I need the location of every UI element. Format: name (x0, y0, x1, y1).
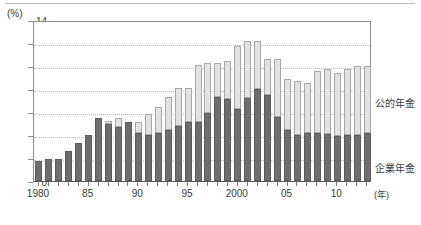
bar-segment-public-pension (314, 71, 321, 133)
bar-segment-corporate-pension (284, 130, 291, 181)
bar-segment-corporate-pension (35, 161, 42, 181)
bar-segment-corporate-pension (244, 98, 251, 181)
x-axis-tick-label: 90 (132, 188, 143, 199)
x-axis-tick-mark (108, 182, 109, 186)
bar-segment-public-pension (264, 59, 271, 95)
bar-column (214, 20, 221, 181)
bar-segment-public-pension (204, 63, 211, 114)
x-axis-tick-mark (326, 182, 327, 186)
x-axis-tick-mark (157, 182, 158, 186)
bar-column (334, 20, 341, 181)
plot-area (33, 21, 371, 182)
bar-segment-corporate-pension (55, 159, 62, 181)
x-axis-tick-mark (257, 182, 258, 186)
bar-column (204, 20, 211, 181)
bar-segment-corporate-pension (155, 133, 162, 181)
bar-group (34, 22, 370, 181)
bar-segment-public-pension (165, 97, 172, 130)
x-axis-tick-mark (366, 182, 367, 186)
bar-segment-corporate-pension (364, 133, 371, 181)
x-axis-tick-mark (118, 182, 119, 186)
x-axis-tick-mark (207, 182, 208, 186)
bar-column (65, 20, 72, 181)
x-axis-tick-mark (247, 182, 248, 186)
bar-segment-corporate-pension (85, 135, 92, 181)
bar-segment-public-pension (364, 66, 371, 133)
x-axis-tick-mark (306, 182, 307, 186)
x-axis-tick-label: 05 (281, 188, 292, 199)
bar-column (145, 20, 152, 181)
x-axis-tick-mark (48, 182, 49, 186)
bar-column (324, 20, 331, 181)
bar-segment-public-pension (155, 107, 162, 132)
x-axis-tick-mark (197, 182, 198, 186)
bar-column (304, 20, 311, 181)
bar-column (85, 20, 92, 181)
bar-column (364, 20, 371, 181)
bar-segment-public-pension (224, 61, 231, 99)
bar-segment-public-pension (145, 114, 152, 135)
x-axis-tick-mark (267, 182, 268, 186)
pension-stacked-bar-chart: (%) 02468101214 198085909520000510(年) 公的… (0, 0, 421, 225)
bar-column (274, 20, 281, 181)
bar-segment-corporate-pension (135, 133, 142, 181)
bar-segment-public-pension (344, 69, 351, 135)
x-axis-tick-mark (227, 182, 228, 186)
bar-segment-corporate-pension (264, 95, 271, 181)
x-axis-tick-mark (98, 182, 99, 186)
x-axis-tick-mark (137, 182, 138, 186)
bar-segment-corporate-pension (115, 127, 122, 181)
bar-segment-public-pension (175, 88, 182, 126)
bar-column (55, 20, 62, 181)
bar-column (35, 20, 42, 181)
bar-column (115, 20, 122, 181)
bar-segment-public-pension (284, 79, 291, 131)
bar-segment-public-pension (214, 63, 221, 98)
bar-segment-corporate-pension (324, 134, 331, 181)
bar-segment-public-pension (115, 118, 122, 127)
x-axis-tick-mark (88, 182, 89, 186)
x-axis-tick-label: 10 (331, 188, 342, 199)
bar-segment-public-pension (274, 59, 281, 117)
x-axis-tick-mark (78, 182, 79, 186)
bar-segment-public-pension (354, 66, 361, 135)
bar-segment-corporate-pension (65, 151, 72, 181)
x-axis-tick-label: 95 (182, 188, 193, 199)
bar-column (175, 20, 182, 181)
series-label-corporate-pension: 企業年金 (375, 160, 415, 175)
bar-segment-public-pension (324, 69, 331, 133)
bar-column (244, 20, 251, 181)
y-axis-tick-mark (28, 182, 33, 183)
x-axis-tick-mark (147, 182, 148, 186)
bar-segment-public-pension (304, 83, 311, 132)
bar-column (254, 20, 261, 181)
x-axis-tick-mark (316, 182, 317, 186)
bar-segment-corporate-pension (185, 122, 192, 181)
bar-column (264, 20, 271, 181)
bar-column (195, 20, 202, 181)
x-axis-tick-mark (177, 182, 178, 186)
bar-column (45, 20, 52, 181)
bar-segment-corporate-pension (274, 117, 281, 181)
bar-segment-corporate-pension (354, 135, 361, 181)
bar-segment-corporate-pension (224, 99, 231, 181)
x-axis-tick-mark (127, 182, 128, 186)
bar-column (165, 20, 172, 181)
x-axis-tick-mark (237, 182, 238, 186)
bar-column (224, 20, 231, 181)
x-axis-tick-mark (296, 182, 297, 186)
bar-column (155, 20, 162, 181)
bar-segment-corporate-pension (145, 135, 152, 181)
bar-segment-public-pension (294, 81, 301, 135)
x-axis-tick-mark (356, 182, 357, 186)
bar-column (125, 20, 132, 181)
x-axis-tick-mark (287, 182, 288, 186)
bar-segment-public-pension (185, 88, 192, 123)
bar-segment-public-pension (334, 73, 341, 136)
bar-column (344, 20, 351, 181)
bar-segment-corporate-pension (175, 126, 182, 181)
bar-segment-public-pension (234, 46, 241, 108)
x-axis-tick-label: 2000 (226, 188, 248, 199)
bar-segment-corporate-pension (234, 109, 241, 181)
bar-segment-corporate-pension (204, 113, 211, 181)
